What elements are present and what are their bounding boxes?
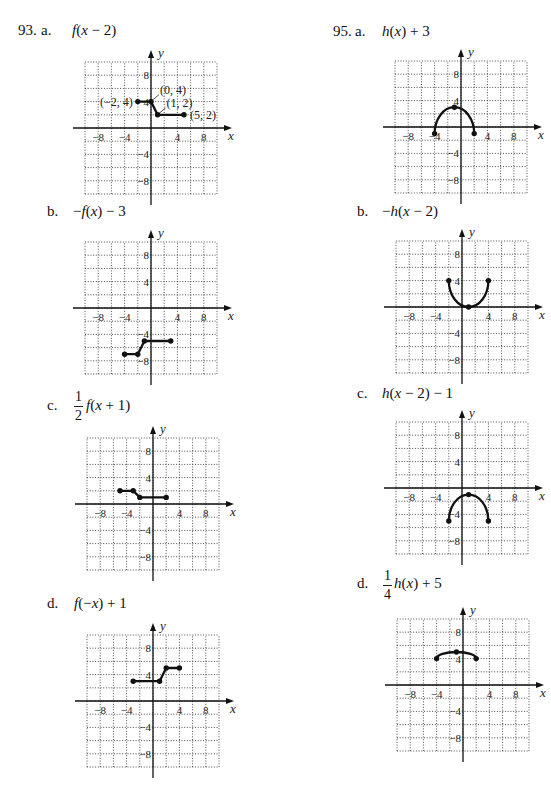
function-expression: f(x − 2)	[72, 21, 116, 39]
y-axis-arrow-icon	[458, 49, 464, 57]
function-expression: f(−x) + 1	[74, 594, 127, 612]
y-axis-label: y	[467, 405, 475, 420]
y-tick-label: −8	[139, 748, 151, 760]
part-label: c.	[47, 396, 57, 414]
graph-95c: xy−8−44884−4−8	[362, 400, 551, 576]
y-tick-label: −8	[448, 354, 460, 366]
y-tick-label: −4	[139, 721, 151, 733]
data-point	[474, 656, 479, 661]
x-tick-label: 4	[486, 491, 492, 503]
y-axis-arrow-icon	[150, 426, 156, 434]
x-tick-label: −4	[430, 491, 442, 503]
y-tick-label: 8	[454, 68, 460, 80]
data-point	[122, 352, 127, 357]
function-expression: f(x + 1)	[86, 396, 130, 414]
y-tick-label: 8	[456, 626, 462, 638]
x-tick-label: −4	[430, 310, 442, 322]
x-tick-label: −8	[404, 688, 416, 700]
x-axis-label: x	[229, 504, 236, 519]
data-point	[432, 131, 437, 136]
data-point	[466, 492, 471, 497]
y-axis-label: y	[466, 44, 474, 59]
y-axis-arrow-icon	[148, 230, 154, 238]
x-tick-label: 8	[511, 130, 517, 142]
y-tick-label: −4	[139, 524, 151, 536]
part-label: a.	[41, 21, 51, 39]
point-label: (5, 2)	[190, 108, 216, 122]
x-tick-label: −8	[403, 310, 415, 322]
part-label: d.	[357, 574, 368, 592]
y-tick-label: −4	[137, 148, 149, 160]
graph-95a: xy−8−44884−4−8	[361, 39, 551, 215]
x-tick-label: 4	[485, 130, 491, 142]
problem-number: 95.	[333, 22, 352, 40]
data-point	[117, 488, 122, 493]
function-expression: h(x) + 5	[394, 574, 442, 592]
leader-line	[152, 95, 159, 101]
x-tick-label: 4	[486, 310, 492, 322]
y-tick-label: −4	[448, 327, 460, 339]
x-tick-label: −8	[92, 311, 104, 323]
data-point	[486, 278, 491, 283]
x-tick-label: 8	[512, 491, 518, 503]
y-tick-label: 8	[455, 429, 461, 441]
y-tick-label: −8	[447, 174, 459, 186]
graph-93b: xy−8−44884−4−8	[51, 220, 251, 396]
graph-95b: xy−8−44884−4−8	[362, 219, 551, 395]
graph-93d: xy−8−44884−4−8	[53, 613, 253, 789]
data-point	[168, 338, 173, 343]
data-point	[452, 105, 457, 110]
data-point	[454, 649, 459, 654]
graph-95d: xy−8−44884−4−8	[363, 597, 551, 773]
data-point	[157, 679, 162, 684]
x-tick-label: −8	[402, 130, 414, 142]
y-axis-label: y	[156, 45, 164, 60]
x-tick-label: 8	[201, 311, 207, 323]
function-curve	[435, 107, 475, 133]
data-point	[131, 488, 136, 493]
x-axis-label: x	[539, 685, 546, 700]
point-label: (0, 4)	[160, 83, 186, 97]
graph-93c: xy−8−44884−4−8	[53, 416, 253, 592]
x-tick-label: 8	[203, 704, 209, 716]
part-label: d.	[47, 594, 58, 612]
y-tick-label: −8	[137, 355, 149, 367]
data-point	[135, 99, 140, 104]
data-point	[472, 131, 477, 136]
y-tick-label: −4	[447, 147, 459, 159]
y-tick-label: 4	[146, 669, 152, 681]
point-label: (−2, 4)	[100, 95, 133, 109]
y-tick-label: −8	[449, 732, 461, 744]
y-tick-label: −8	[137, 175, 149, 187]
x-tick-label: 4	[175, 311, 181, 323]
data-point	[131, 679, 136, 684]
point-label: (1, 2)	[167, 96, 193, 110]
x-axis-label: x	[227, 128, 234, 143]
y-tick-label: 4	[144, 276, 150, 288]
x-tick-label: −8	[94, 507, 106, 519]
data-point	[164, 495, 169, 500]
y-axis-label: y	[158, 421, 166, 436]
x-tick-label: −4	[121, 704, 133, 716]
x-tick-label: 4	[175, 131, 181, 143]
y-tick-label: 8	[146, 445, 152, 457]
x-tick-label: −8	[94, 704, 106, 716]
y-axis-arrow-icon	[150, 623, 156, 631]
data-point	[434, 656, 439, 661]
y-tick-label: −8	[139, 551, 151, 563]
x-tick-label: 4	[177, 704, 183, 716]
y-axis-arrow-icon	[459, 229, 465, 237]
y-axis-label: y	[156, 225, 164, 240]
data-point	[164, 665, 169, 670]
y-tick-label: 4	[455, 275, 461, 287]
x-axis-label: x	[538, 307, 545, 322]
y-axis-label: y	[467, 224, 475, 239]
y-tick-label: 8	[144, 249, 150, 261]
y-axis-arrow-icon	[459, 410, 465, 418]
graph-93a: xy−8−44884−4−8(−2, 4)(0, 4)(1, 2)(5, 2)	[51, 40, 251, 216]
x-tick-label: −4	[119, 311, 131, 323]
x-tick-label: 8	[201, 131, 207, 143]
data-point	[486, 518, 491, 523]
data-point	[181, 112, 186, 117]
